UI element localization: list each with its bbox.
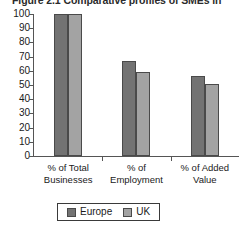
bar-group [34,14,102,156]
category-label-line: % of [102,162,170,174]
y-axis-tick-label: 70 [0,52,30,62]
y-axis-tick-label: 20 [0,123,30,133]
chart-legend: EuropeUK [57,203,160,221]
category-label-line: Value [171,174,239,186]
category-label: % of AddedValue [171,162,239,186]
bars-plot-area [34,14,239,156]
y-axis-tick-label: 40 [0,94,30,104]
x-axis-divider-tick [171,157,172,161]
bar-group [102,14,170,156]
y-axis-tick-label: 0 [0,151,30,161]
x-axis-line [33,156,239,157]
y-axis-tick-label: 60 [0,66,30,76]
legend-swatch-icon [67,208,76,217]
category-label: % of TotalBusinesses [34,162,102,186]
bar-europe[interactable] [191,76,205,156]
legend-swatch-icon [123,208,132,217]
category-label: % ofEmployment [102,162,170,186]
y-axis-tick-labels: 1009080706050403020100 [0,12,30,156]
legend-label: Europe [80,207,112,217]
y-axis-tick-label: 80 [0,37,30,47]
bar-uk[interactable] [205,84,219,156]
y-axis-tick-label: 30 [0,108,30,118]
bar-uk[interactable] [68,14,82,156]
category-label-line: Employment [102,174,170,186]
bar-europe[interactable] [122,61,136,156]
x-axis-divider-tick [102,157,103,161]
chart-title: Figure 2.1 Comparative profiles of SMEs … [12,0,243,6]
bar-group [171,14,239,156]
y-axis-tick-label: 50 [0,80,30,90]
y-axis-tick-label: 10 [0,137,30,147]
y-axis-tick-label: 100 [0,9,30,19]
legend-label: UK [136,207,150,217]
x-axis-category-labels: % of TotalBusinesses% ofEmployment% of A… [34,162,239,192]
plot-region: 1009080706050403020100 [0,12,243,160]
y-axis-tick-label: 90 [0,23,30,33]
category-label-line: % of Added [171,162,239,174]
legend-entry-uk[interactable]: UK [123,207,150,217]
category-label-line: % of Total [34,162,102,174]
legend-entry-europe[interactable]: Europe [67,207,112,217]
bar-europe[interactable] [54,14,68,156]
category-label-line: Businesses [34,174,102,186]
bar-uk[interactable] [136,72,150,156]
